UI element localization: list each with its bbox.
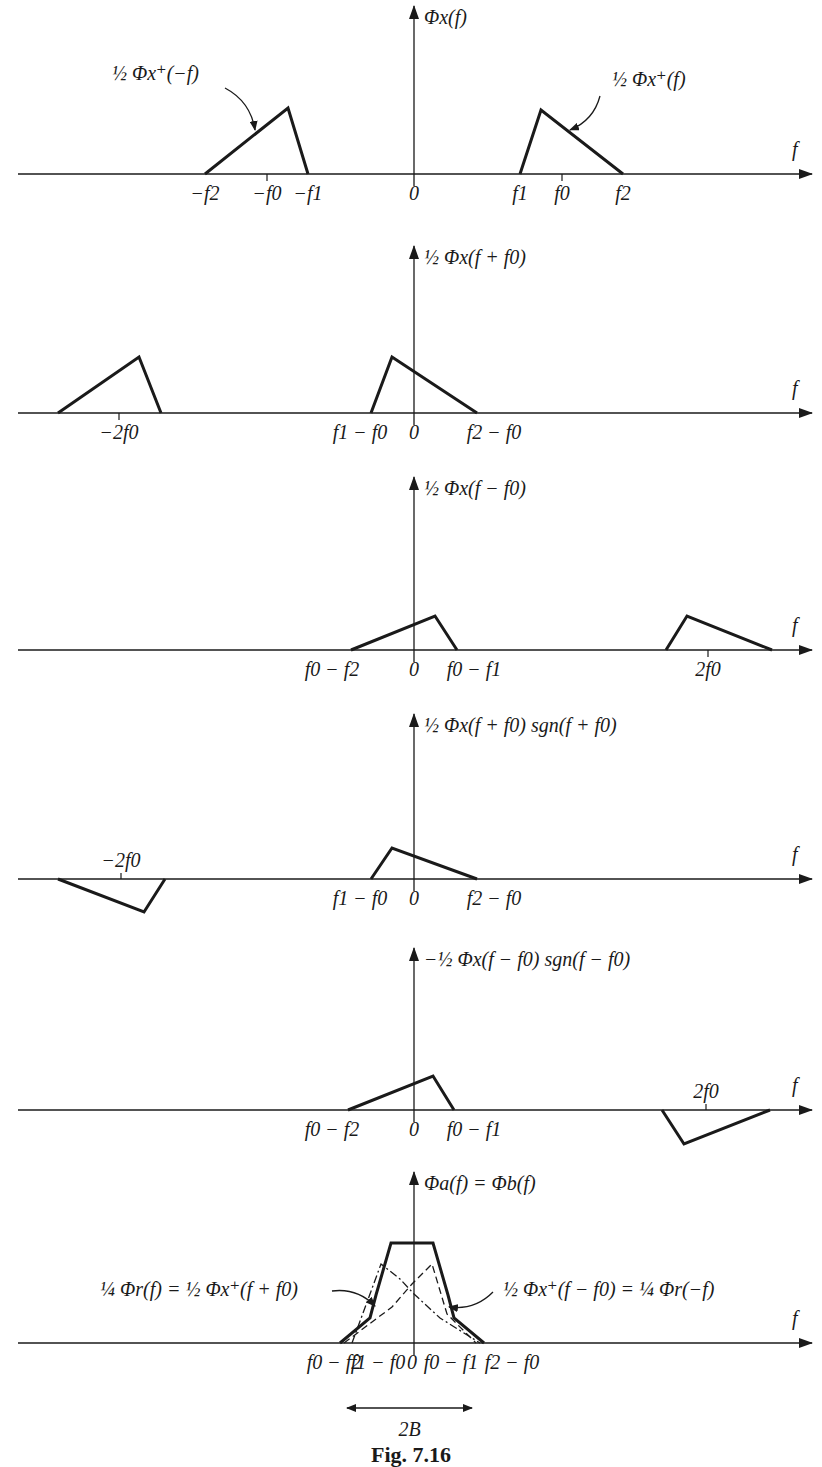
annotation-arrow: [225, 88, 255, 130]
tick-label: 0: [409, 182, 419, 204]
y-axis-label: Φx(f): [424, 6, 467, 29]
spectrum-solid: [340, 1243, 484, 1343]
tick-label: 0: [409, 1118, 419, 1140]
y-axis-label: Φa(f) = Φb(f): [424, 1172, 536, 1195]
annotation-arrow: [570, 96, 600, 130]
bandwidth-label: 2B: [398, 1418, 420, 1440]
tick-label: −f2: [190, 182, 219, 205]
spectrum-dashed: [344, 1264, 476, 1343]
tick-label: 0: [409, 887, 419, 909]
tick-label: f1 − f0: [333, 887, 388, 910]
panel-phi-x-plus-f0-sgn: ½ Φx(f + f0) sgn(f + f0)ff1 − f00f2 − f0…: [18, 714, 812, 912]
figure-canvas: Φx(f)f−f2−f0−f10f1f0f2½ Φx⁺(−f)½ Φx⁺(f)½…: [0, 0, 822, 1467]
annotation-label: ½ Φx⁺(f): [612, 68, 686, 91]
tick-label: −f1: [293, 182, 322, 205]
f-axis-label: f: [792, 843, 800, 866]
tick-label: f0 − f1: [447, 1118, 502, 1141]
spectrum-solid: [58, 357, 161, 413]
panel-phi-a-equals-phi-b: Φa(f) = Φb(f)ff0 − f2f1 − f00f0 − f1f2 −…: [18, 1172, 812, 1440]
f-axis-label: f: [792, 614, 800, 637]
panel-neg-phi-x-minus-f0-sgn: −½ Φx(f − f0) sgn(f − f0)ff0 − f20f0 − f…: [18, 948, 812, 1144]
tick-label: f0 − f1: [447, 658, 502, 681]
f-axis-label: f: [792, 377, 800, 400]
spectrum-panels: Φx(f)f−f2−f0−f10f1f0f2½ Φx⁺(−f)½ Φx⁺(f)½…: [18, 6, 812, 1440]
y-axis-label: ½ Φx(f + f0) sgn(f + f0): [424, 714, 617, 737]
tick-label: f2: [615, 182, 631, 205]
tick-label: 0: [407, 1351, 417, 1373]
tick-label: f0 − f2: [305, 658, 360, 681]
f-axis-label: f: [792, 1074, 800, 1097]
spectrum-solid: [662, 1110, 770, 1144]
spectrum-solid: [348, 1076, 454, 1110]
tick-label: −2f0: [101, 849, 140, 872]
panel-phi-x-plus-f0: ½ Φx(f + f0)f−2f0f1 − f00f2 − f0: [18, 246, 812, 444]
y-axis-label: ½ Φx(f − f0): [424, 477, 526, 500]
tick-label: −f0: [252, 182, 281, 205]
y-axis-label: ½ Φx(f + f0): [424, 246, 526, 269]
spectrum-solid: [371, 357, 477, 413]
tick-label: f1 − f0: [333, 421, 388, 444]
tick-label: f1: [512, 182, 528, 205]
tick-label: −2f0: [99, 421, 138, 444]
tick-label: f2 − f0: [467, 887, 522, 910]
panel-phi-x: Φx(f)f−f2−f0−f10f1f0f2½ Φx⁺(−f)½ Φx⁺(f): [18, 6, 812, 205]
tick-label: f2 − f0: [485, 1351, 540, 1374]
spectrum-solid: [351, 616, 457, 650]
annotation-label: ½ Φx⁺(f − f0) = ¼ Φr(−f): [503, 1278, 715, 1301]
annotation-arrow: [332, 1291, 375, 1306]
spectrum-solid: [205, 108, 308, 174]
figure-caption: Fig. 7.16: [371, 1442, 451, 1467]
annotation-label: ½ Φx⁺(−f): [112, 62, 199, 85]
tick-label: f2 − f0: [467, 421, 522, 444]
annotation-arrow: [449, 1292, 493, 1308]
annotation-label: ¼ Φr(f) = ½ Φx⁺(f + f0): [100, 1278, 298, 1301]
tick-label: f0 − f2: [305, 1118, 360, 1141]
spectrum-solid: [58, 879, 165, 912]
spectrum-solid: [520, 110, 623, 174]
tick-label: f1 − f0: [351, 1351, 406, 1374]
panel-phi-x-minus-f0: ½ Φx(f − f0)ff0 − f20f0 − f12f0: [18, 477, 812, 681]
tick-label: 2f0: [695, 658, 721, 681]
f-axis-label: f: [792, 138, 800, 161]
tick-label: f0: [554, 182, 570, 205]
y-axis-label: −½ Φx(f − f0) sgn(f − f0): [424, 948, 631, 971]
tick-label: f0 − f1: [424, 1351, 479, 1374]
spectrum-solid: [371, 848, 477, 879]
spectrum-solid: [666, 616, 772, 650]
tick-label: 0: [409, 658, 419, 680]
tick-label: 0: [409, 421, 419, 443]
tick-label: 2f0: [693, 1080, 719, 1103]
f-axis-label: f: [792, 1307, 800, 1330]
spectrum-dashdot: [352, 1264, 480, 1343]
